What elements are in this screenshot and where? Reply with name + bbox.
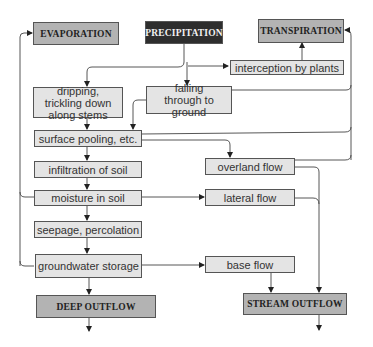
moisture-box: moisture in soil — [34, 190, 142, 206]
transpiration-box: TRANSPIRATION — [258, 19, 344, 43]
falling-box: falling through to ground — [146, 86, 232, 114]
stream-outflow-label: STREAM OUTFLOW — [247, 298, 342, 310]
dripping-box: dripping, trickling down along stems — [33, 87, 123, 118]
lateral-flow-label: lateral flow — [224, 192, 277, 204]
precipitation-box: PRECIPITATION — [145, 21, 223, 44]
deep-outflow-label: DEEP OUTFLOW — [56, 301, 135, 313]
stream-outflow-box: STREAM OUTFLOW — [243, 293, 347, 315]
infiltration-box: infiltration of soil — [34, 161, 142, 178]
overland-flow-box: overland flow — [205, 158, 295, 175]
interception-box: interception by plants — [230, 60, 344, 75]
water-cycle-diagram: EVAPORATION PRECIPITATION TRANSPIRATION … — [0, 0, 373, 347]
evaporation-label: EVAPORATION — [40, 28, 112, 40]
moisture-label: moisture in soil — [51, 192, 124, 204]
seepage-label: seepage, percolation — [37, 224, 139, 236]
seepage-box: seepage, percolation — [34, 221, 142, 238]
transpiration-label: TRANSPIRATION — [260, 25, 342, 37]
dripping-label: dripping, trickling down along stems — [38, 85, 118, 121]
infiltration-label: infiltration of soil — [49, 164, 128, 176]
base-flow-box: base flow — [205, 256, 295, 273]
evaporation-box: EVAPORATION — [33, 22, 119, 45]
groundwater-box: groundwater storage — [35, 254, 142, 278]
precipitation-label: PRECIPITATION — [145, 27, 223, 39]
overland-flow-label: overland flow — [218, 161, 283, 173]
deep-outflow-box: DEEP OUTFLOW — [36, 295, 156, 318]
lateral-flow-box: lateral flow — [205, 189, 295, 206]
surface-pooling-label: surface pooling, etc. — [39, 133, 137, 145]
surface-pooling-box: surface pooling, etc. — [34, 130, 142, 147]
base-flow-label: base flow — [227, 259, 273, 271]
interception-label: interception by plants — [235, 62, 339, 74]
falling-label: falling through to ground — [155, 82, 223, 118]
groundwater-label: groundwater storage — [38, 260, 139, 272]
